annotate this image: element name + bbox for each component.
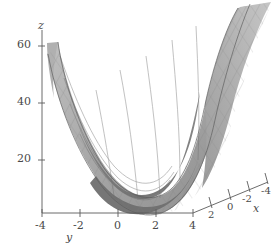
x-tick-2: 2: [208, 210, 214, 220]
x-axis-label: x: [253, 203, 259, 214]
y-tick-4: 4: [189, 220, 196, 231]
x-tick--4: -4: [261, 186, 271, 196]
x-tick--2: -2: [242, 194, 252, 204]
plot-canvas: [0, 0, 278, 248]
y-tick--2: -2: [73, 220, 84, 231]
surface-plot-figure: z 60 40 20 -4 -2 0 2 4 y 2 0 -2 -4 x: [0, 0, 278, 248]
z-tick-20: 20: [17, 153, 31, 164]
y-tick--4: -4: [35, 220, 46, 231]
x-tick-0: 0: [227, 202, 233, 212]
z-axis-ticks: [38, 46, 45, 160]
y-tick-2: 2: [152, 220, 159, 231]
z-tick-60: 60: [17, 39, 31, 50]
y-tick-0: 0: [114, 220, 121, 231]
y-axis-label: y: [66, 232, 72, 243]
z-axis-label: z: [38, 20, 44, 31]
z-tick-40: 40: [17, 96, 31, 107]
surface-iso-curves: [60, 26, 199, 200]
